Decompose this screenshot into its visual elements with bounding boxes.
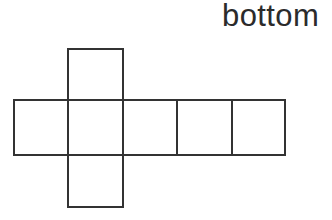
net-cell-row-square-1 — [14, 100, 68, 155]
net-cells — [14, 49, 285, 207]
net-cell-bottom-flap — [68, 155, 123, 207]
net-cell-row-square-4 — [177, 100, 232, 155]
net-cell-row-square-3 — [123, 100, 177, 155]
caption-bottom-label: bottom — [222, 0, 319, 34]
cube-net-figure: bottom — [0, 0, 332, 220]
net-cell-top-flap — [68, 49, 123, 100]
net-cell-row-square-5 — [232, 100, 285, 155]
net-cell-row-square-2 — [68, 100, 123, 155]
